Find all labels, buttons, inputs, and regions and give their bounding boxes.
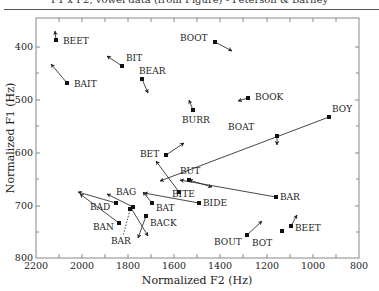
svg-text:500: 500 (15, 94, 33, 105)
svg-text:BOY: BOY (332, 104, 353, 114)
y-tick-labels: 400 500 600 700 800 (15, 41, 33, 263)
svg-text:2000: 2000 (70, 260, 94, 271)
svg-text:1800: 1800 (116, 260, 140, 271)
svg-text:2200: 2200 (24, 260, 48, 271)
svg-text:BAT: BAT (156, 203, 175, 213)
svg-text:BEET: BEET (295, 223, 321, 233)
svg-text:BOAT: BOAT (228, 122, 254, 132)
svg-text:1000: 1000 (301, 260, 325, 271)
vowel-chart: 400 500 600 700 800 2200 2000 1800 1600 … (0, 0, 379, 291)
svg-text:1600: 1600 (162, 260, 186, 271)
plot-frame (36, 18, 359, 258)
svg-text:BITE: BITE (172, 189, 195, 199)
svg-text:BOOK: BOOK (255, 92, 284, 102)
svg-text:BAR: BAR (111, 236, 131, 246)
x-tick-labels: 2200 2000 1800 1600 1400 1200 1000 800 (24, 260, 368, 271)
svg-text:BOOT: BOOT (180, 33, 208, 43)
svg-text:BAG: BAG (116, 187, 136, 197)
svg-text:BACK: BACK (150, 218, 177, 228)
point-labels: BEET BAIT BIT BEAR BOOT BOOK BURR BOY BO… (63, 33, 353, 248)
y-axis-label: Normalized F1 (Hz) (4, 83, 17, 193)
svg-text:800: 800 (350, 260, 368, 271)
dotted-trajectory (123, 210, 130, 236)
svg-text:BAD: BAD (90, 202, 110, 212)
svg-text:BAN: BAN (93, 222, 114, 232)
x-axis-label: Normalized F2 (Hz) (142, 274, 252, 287)
svg-text:700: 700 (15, 200, 33, 211)
svg-text:BET: BET (140, 149, 159, 159)
svg-text:BAR: BAR (280, 192, 300, 202)
svg-text:1400: 1400 (208, 260, 232, 271)
svg-text:1200: 1200 (255, 260, 279, 271)
svg-text:600: 600 (15, 147, 33, 158)
svg-text:400: 400 (15, 41, 33, 52)
svg-text:BURR: BURR (182, 115, 210, 125)
svg-text:BOT: BOT (252, 238, 272, 248)
svg-text:BEAR: BEAR (139, 66, 166, 76)
svg-text:BIDE: BIDE (203, 198, 227, 208)
svg-text:BEET: BEET (63, 36, 89, 46)
svg-text:BIT: BIT (126, 53, 142, 63)
svg-text:BOUT: BOUT (214, 237, 242, 247)
svg-text:BUT: BUT (180, 166, 200, 176)
svg-text:BAIT: BAIT (74, 79, 97, 89)
